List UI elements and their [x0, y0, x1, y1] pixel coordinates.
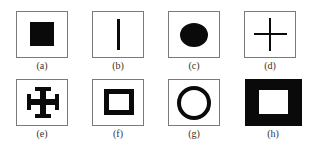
filled-square-shape [30, 22, 54, 46]
panel-b [92, 11, 144, 58]
square-frame-shape [104, 89, 134, 115]
panel-c [168, 11, 220, 58]
panel-h [245, 79, 302, 126]
panel-h-label: (h) [247, 128, 299, 139]
panel-f-label: (f) [92, 128, 144, 139]
cross-potent-shape [17, 80, 69, 127]
panel-b-label: (b) [92, 60, 144, 71]
panel-e-label: (e) [16, 128, 68, 139]
panel-d-label: (d) [244, 60, 296, 71]
panel-g-label: (g) [168, 128, 220, 139]
panel-c-label: (c) [168, 60, 220, 71]
filled-ellipse-shape [169, 12, 221, 59]
vertical-line-shape [117, 19, 120, 50]
panel-a [16, 11, 68, 58]
panel-e [16, 79, 68, 126]
panel-g [168, 79, 220, 126]
panel-a-label: (a) [16, 60, 68, 71]
ring-shape [169, 80, 221, 127]
plus-vertical-bar [269, 18, 271, 51]
panel-f [92, 79, 144, 126]
thick-frame-inner [259, 90, 288, 114]
panel-d [244, 11, 296, 58]
